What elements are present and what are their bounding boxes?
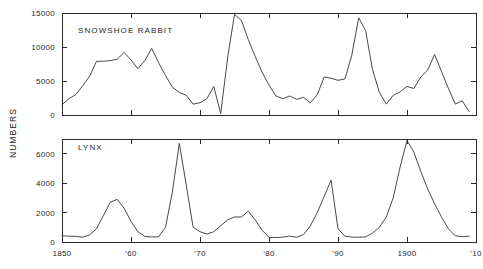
x-axis-tick-labels: 1850'60'70'80'901900'10 [53, 249, 482, 258]
population-cycles-chart: NUMBERS 050001000015000 SNOWSHOE RABBIT … [0, 0, 483, 269]
y-tick-label: 0 [50, 111, 55, 120]
y-tick-label: 4000 [36, 179, 55, 188]
chart-figure: NUMBERS 050001000015000 SNOWSHOE RABBIT … [0, 0, 483, 269]
y-tick-label: 6000 [36, 150, 55, 159]
panel-lynx-frame [62, 139, 476, 242]
x-tick-label: '70 [194, 249, 206, 258]
y-tick-label: 2000 [36, 209, 55, 218]
y-tick-label: 0 [50, 238, 55, 247]
panel-lynx-x-ticks [62, 139, 476, 242]
panel-rabbit-title: SNOWSHOE RABBIT [78, 26, 173, 35]
x-tick-label: '10 [470, 249, 482, 258]
y-axis-title: NUMBERS [8, 108, 18, 158]
x-tick-label: 1900 [398, 249, 417, 258]
x-tick-label: '90 [332, 249, 344, 258]
panel-lynx: 0200040006000 LYNX [36, 139, 476, 247]
x-tick-label: '80 [263, 249, 275, 258]
panel-lynx-y-ticks: 0200040006000 [36, 150, 476, 247]
y-tick-label: 5000 [36, 77, 55, 86]
y-tick-label: 10000 [31, 43, 55, 52]
y-tick-label: 15000 [31, 9, 55, 18]
y-axis-title-label: NUMBERS [8, 108, 18, 158]
x-tick-label: '60 [125, 249, 137, 258]
x-tick-label: 1850 [53, 249, 72, 258]
panel-snowshoe-rabbit: 050001000015000 SNOWSHOE RABBIT [31, 9, 476, 120]
panel-lynx-title: LYNX [78, 143, 103, 152]
series-line-lynx [62, 140, 469, 237]
